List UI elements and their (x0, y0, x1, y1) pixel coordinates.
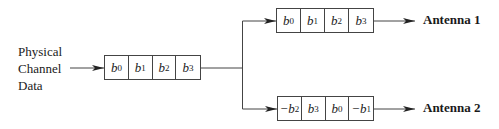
input-label-line: Channel (18, 60, 62, 77)
register-cell: b2 (153, 56, 177, 79)
register-cell: −b1 (349, 97, 373, 120)
antenna-2-label: Antenna 2 (423, 100, 480, 116)
source-register: b0 b1 b2 b3 (104, 55, 201, 80)
input-label-line: Physical (18, 43, 62, 60)
input-label: Physical Channel Data (18, 43, 62, 94)
register-cell: b3 (302, 97, 326, 120)
register-cell: b3 (349, 9, 373, 32)
register-cell: b2 (325, 9, 349, 32)
register-cell: b0 (105, 56, 129, 79)
register-cell: b1 (301, 9, 325, 32)
register-cell: b0 (326, 97, 350, 120)
input-label-line: Data (18, 77, 62, 94)
antenna-2-register: −b2 b3 b0 −b1 (277, 96, 374, 121)
register-cell: b1 (129, 56, 153, 79)
register-cell: b0 (277, 9, 301, 32)
register-cell: b3 (176, 56, 200, 79)
register-cell: −b2 (278, 97, 302, 120)
antenna-1-register: b0 b1 b2 b3 (276, 8, 374, 33)
antenna-1-label: Antenna 1 (423, 12, 480, 28)
